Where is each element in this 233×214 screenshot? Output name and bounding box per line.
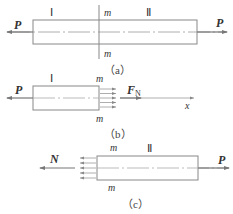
section-m-bottom-label: m: [108, 182, 115, 193]
region-i-label: Ⅰ: [50, 72, 53, 84]
section-m-top-label: m: [104, 7, 111, 18]
force-p-left-label: P: [14, 18, 22, 32]
internal-force-fn-label: FN: [126, 83, 141, 98]
force-p-label: P: [15, 83, 23, 97]
region-ii-label: Ⅱ: [146, 6, 151, 18]
force-p-label: P: [218, 153, 226, 167]
axial-force-diagram: P P Ⅰ Ⅱ m m （a） P FN x Ⅰ m m （b）: [0, 0, 233, 214]
internal-force-n-label: N: [49, 152, 60, 166]
panel-a: P P Ⅰ Ⅱ m m （a）: [7, 5, 227, 76]
x-axis-label: x: [184, 100, 190, 111]
panel-b: P FN x Ⅰ m m （b）: [7, 72, 194, 140]
section-m-bottom-label: m: [96, 113, 103, 124]
section-m-bottom-label: m: [104, 48, 111, 59]
section-m-top-label: m: [110, 142, 117, 153]
panel-c: N P Ⅱ m m （c）: [40, 142, 229, 210]
caption-b: （b）: [104, 128, 132, 140]
force-p-right-label: P: [216, 16, 224, 30]
distributed-stress-arrows: [80, 158, 96, 178]
caption-c: （c）: [122, 198, 149, 210]
region-ii-label: Ⅱ: [147, 142, 152, 154]
caption-a: （a）: [104, 64, 131, 76]
distributed-stress-arrows: [100, 89, 116, 107]
region-i-label: Ⅰ: [50, 6, 53, 18]
section-m-top-label: m: [96, 73, 103, 84]
